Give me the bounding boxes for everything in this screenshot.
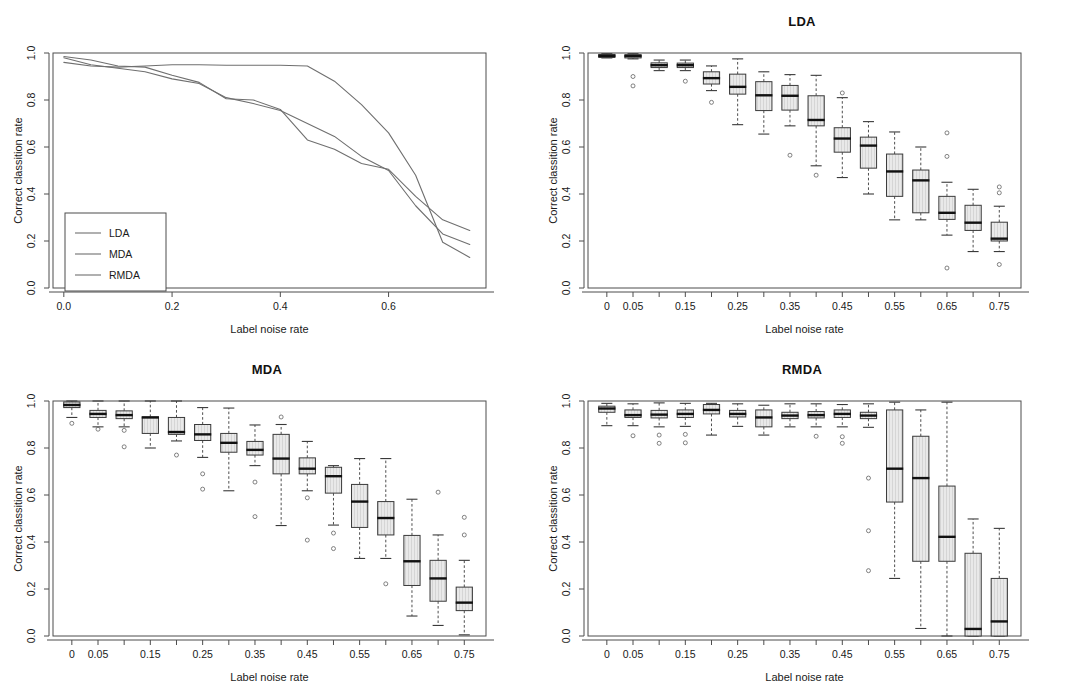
box-rect <box>456 587 472 611</box>
mda-boxplot-svg: 0.00.20.40.60.81.0Correct classition rat… <box>0 348 534 696</box>
outlier-point <box>788 153 792 157</box>
boxplot-item <box>965 519 982 636</box>
box-rect <box>860 137 876 168</box>
outlier-point <box>840 441 844 445</box>
boxplot-item <box>991 528 1008 636</box>
y-tick-label: 0.6 <box>25 488 37 503</box>
y-tick-label: 1.0 <box>560 46 572 61</box>
boxes-group <box>63 401 473 635</box>
box-rect <box>887 410 903 502</box>
x-axis-title: Label noise rate <box>765 671 843 683</box>
boxplot-item <box>703 66 720 104</box>
y-tick-label: 0.4 <box>25 187 37 202</box>
x-tick-label: 0.65 <box>937 648 958 660</box>
boxplot-item <box>912 147 929 220</box>
boxplot-item <box>729 404 746 427</box>
x-axis: 00.050.150.250.350.450.550.650.75 <box>582 640 1029 660</box>
box-rect <box>325 467 341 493</box>
y-axis-title: Correct classition rate <box>12 117 24 223</box>
x-tick-label: 0.35 <box>780 300 801 312</box>
y-tick-label: 0.8 <box>560 441 572 456</box>
x-axis-title: Label noise rate <box>765 323 843 335</box>
y-tick-label: 0.6 <box>560 488 572 503</box>
boxplot-item <box>246 425 263 519</box>
outlier-point <box>436 490 440 494</box>
x-tick-label: 0.05 <box>623 300 644 312</box>
outlier-point <box>945 154 949 158</box>
y-tick-label: 1.0 <box>560 394 572 409</box>
boxplot-item <box>624 404 641 438</box>
y-tick-label: 0.0 <box>25 281 37 296</box>
outlier-point <box>331 531 335 535</box>
y-tick-label: 0.6 <box>25 140 37 155</box>
x-tick-label: 0.4 <box>273 300 288 312</box>
y-axis-title: Correct classition rate <box>12 465 24 571</box>
outlier-point <box>997 191 1001 195</box>
rmda-boxplot-svg: 0.00.20.40.60.81.0Correct classition rat… <box>535 348 1069 696</box>
y-tick-label: 0.4 <box>560 535 572 550</box>
outlier-point <box>866 529 870 533</box>
y-axis: 0.00.20.40.60.81.0 <box>25 46 49 296</box>
box-rect <box>430 560 446 601</box>
outlier-point <box>814 434 818 438</box>
outlier-point <box>201 472 205 476</box>
x-axis: 00.050.150.250.350.450.550.650.75 <box>582 292 1029 312</box>
boxplot-item <box>351 459 368 559</box>
outlier-point <box>840 91 844 95</box>
boxplot-item <box>403 499 420 616</box>
x-tick-label: 0.65 <box>937 300 958 312</box>
y-tick-label: 0.2 <box>25 582 37 597</box>
boxplot-item <box>729 59 746 125</box>
y-tick-label: 0.0 <box>560 281 572 296</box>
y-tick-label: 0.2 <box>25 234 37 249</box>
outlier-point <box>709 100 713 104</box>
y-axis: 0.00.20.40.60.81.0 <box>560 394 584 644</box>
boxplot-item <box>168 401 185 457</box>
boxplot-item <box>677 403 694 444</box>
outlier-point <box>96 427 100 431</box>
x-tick-label: 0.25 <box>727 648 748 660</box>
x-tick-label: 0.45 <box>832 300 853 312</box>
x-tick-label: 0.45 <box>297 648 318 660</box>
boxes-group <box>598 54 1008 270</box>
boxplot-item <box>912 410 929 629</box>
boxplot-item <box>194 408 211 492</box>
y-tick-label: 0.8 <box>25 441 37 456</box>
outlier-point <box>683 432 687 436</box>
box-rect <box>913 436 929 561</box>
boxplot-item <box>834 91 851 178</box>
outlier-point <box>840 435 844 439</box>
boxplot-item <box>834 405 851 446</box>
legend-label-lda: LDA <box>109 227 129 239</box>
box-rect <box>913 170 929 213</box>
outlier-point <box>866 476 870 480</box>
boxplot-item <box>781 75 798 158</box>
outlier-point <box>70 421 74 425</box>
boxplot-item <box>598 54 615 58</box>
panel-mean-curves: 0.00.20.40.60.81.0Correct classition rat… <box>0 0 534 348</box>
box-rect <box>625 410 641 418</box>
boxplot-item <box>781 404 798 427</box>
y-axis: 0.00.20.40.60.81.0 <box>560 46 584 296</box>
boxplot-item <box>624 54 641 88</box>
x-tick-label: 0.55 <box>884 648 905 660</box>
outlier-point <box>997 263 1001 267</box>
boxplot-item <box>142 401 159 448</box>
x-axis: 00.050.150.250.350.450.550.650.75 <box>47 640 494 660</box>
panel-mda: MDA 0.00.20.40.60.81.0Correct classition… <box>0 348 534 696</box>
boxplot-item <box>860 122 877 194</box>
boxplot-item <box>299 441 316 542</box>
outlier-point <box>683 441 687 445</box>
outlier-point <box>814 173 818 177</box>
x-tick-label: 0 <box>604 300 610 312</box>
legend-label-mda: MDA <box>109 248 132 260</box>
x-tick-label: 0.15 <box>140 648 161 660</box>
outlier-point <box>253 515 257 519</box>
x-axis: 0.00.20.40.6 <box>49 292 494 312</box>
outlier-point <box>174 453 178 457</box>
y-tick-label: 0.0 <box>560 629 572 644</box>
outlier-point <box>122 428 126 432</box>
x-tick-label: 0.75 <box>989 300 1010 312</box>
x-tick-label: 0.65 <box>402 648 423 660</box>
box-rect <box>939 196 955 219</box>
